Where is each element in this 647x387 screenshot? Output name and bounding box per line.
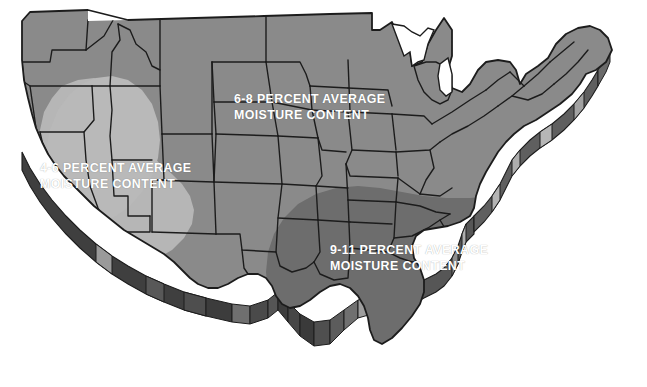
map-figure: 6-8 PERCENT AVERAGE MOISTURE CONTENT 4-6… — [0, 0, 647, 387]
us-moisture-map — [0, 0, 647, 387]
